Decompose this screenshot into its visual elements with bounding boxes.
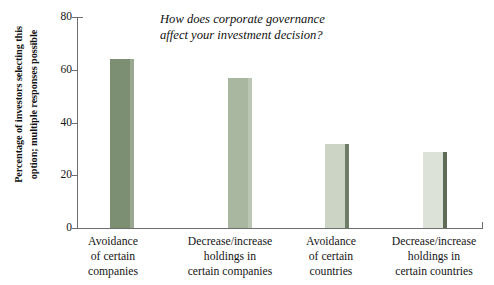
bar-side-face-3 [443, 155, 447, 228]
x-axis-right-cap [482, 222, 483, 229]
y-axis-title: Percentage of investors selecting this o… [12, 0, 41, 221]
bar-decrease-increase-holdings-certain-countries [423, 152, 443, 228]
y-tick-20 [72, 175, 78, 176]
bar-front-face-0 [110, 59, 130, 228]
y-tick-0 [72, 228, 78, 229]
x-category-label-0: Avoidance of certain companies [68, 234, 158, 280]
bar-front-face-1 [228, 78, 248, 228]
plot-area: 80 60 40 20 0 [77, 17, 483, 228]
x-axis-line [77, 228, 483, 229]
y-tick-label-80: 80 [32, 11, 72, 23]
x-category-label-3: Decrease/increase holdings in certain co… [376, 234, 492, 280]
y-tick-80 [72, 17, 78, 18]
y-tick-40 [72, 123, 78, 124]
bar-top-face-2 [345, 144, 349, 147]
bar-side-face-1 [248, 81, 252, 228]
bar-top-face-3 [443, 152, 447, 155]
bar-front-face-3 [423, 152, 443, 228]
bar-top-face-0 [130, 59, 134, 62]
y-tick-60 [72, 70, 78, 71]
bar-top-face-1 [248, 78, 252, 81]
y-tick-label-60: 60 [32, 64, 72, 76]
bar-avoidance-of-certain-countries [325, 144, 345, 228]
bar-side-face-0 [130, 62, 134, 228]
bar-decrease-increase-holdings-certain-companies [228, 78, 248, 228]
x-category-label-2: Avoidance of certain countries [288, 234, 374, 280]
y-tick-label-40: 40 [32, 117, 72, 129]
y-axis-title-container: Percentage of investors selecting this o… [0, 0, 46, 285]
x-category-label-1: Decrease/increase holdings in certain co… [172, 234, 288, 280]
y-tick-label-0: 0 [32, 222, 72, 234]
bar-side-face-2 [345, 147, 349, 228]
bar-chart: Percentage of investors selecting this o… [0, 0, 494, 285]
bar-front-face-2 [325, 144, 345, 228]
y-tick-label-20: 20 [32, 169, 72, 181]
bar-avoidance-of-certain-companies [110, 59, 130, 228]
